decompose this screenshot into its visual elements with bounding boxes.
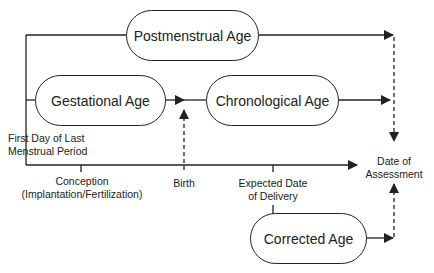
conception-label-line2: (Implantation/Fertilization) — [20, 188, 144, 201]
birth-label: Birth — [164, 177, 204, 190]
conception-label-line1: Conception — [20, 175, 144, 188]
edd-label: Expected Date of Delivery — [233, 177, 313, 203]
corrected-age-box: Corrected Age — [250, 213, 367, 264]
assessment-label: Date of Assessment — [364, 155, 424, 181]
lmp-label-line2: Menstrual Period — [8, 145, 87, 158]
assessment-label-line2: Assessment — [364, 168, 424, 181]
edd-label-line1: Expected Date — [233, 177, 313, 190]
postmenstrual-age-label: Postmenstrual Age — [134, 28, 252, 44]
lmp-label: First Day of Last Menstrual Period — [8, 132, 87, 158]
lmp-label-line1: First Day of Last — [8, 132, 87, 145]
corrected-age-label: Corrected Age — [264, 231, 354, 247]
conception-label: Conception (Implantation/Fertilization) — [20, 175, 144, 201]
edd-label-line2: of Delivery — [233, 190, 313, 203]
postmenstrual-age-box: Postmenstrual Age — [126, 10, 259, 61]
assessment-label-line1: Date of — [364, 155, 424, 168]
chronological-age-label: Chronological Age — [216, 93, 330, 109]
chronological-age-box: Chronological Age — [206, 75, 339, 126]
gestational-age-box: Gestational Age — [35, 75, 166, 126]
gestational-age-label: Gestational Age — [51, 93, 150, 109]
